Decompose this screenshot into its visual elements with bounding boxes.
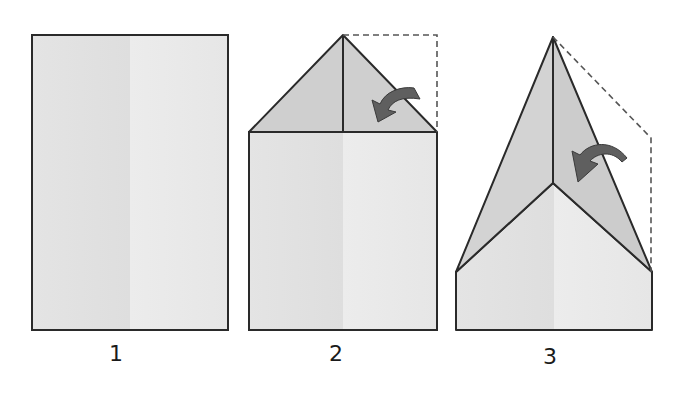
step-3-label: 3 [543, 344, 557, 369]
step-1-sheet [32, 35, 228, 330]
step-1-label: 1 [109, 341, 123, 366]
step-2-sheet [249, 35, 437, 330]
step-3-sheet [456, 37, 652, 330]
folding-diagram [0, 0, 689, 416]
step-2-label: 2 [329, 341, 343, 366]
